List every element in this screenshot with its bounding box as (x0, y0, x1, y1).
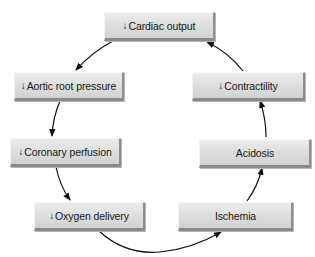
decrease-arrow-icon: ↓ (49, 210, 54, 221)
arrow-aortic-to-coronary (52, 101, 60, 136)
node-ischemia: Ischemia (178, 202, 293, 231)
node-label: Aortic root pressure (27, 80, 117, 92)
node-label: Contractility (224, 80, 278, 92)
decrease-arrow-icon: ↓ (18, 146, 23, 157)
node-label: Ischemia (215, 210, 256, 222)
arrow-contractility-to-cardiac (207, 42, 243, 71)
arrow-oxygen-to-ischemia (99, 231, 221, 252)
node-cardiac-output: ↓ Cardiac output (104, 12, 215, 41)
node-label: Cardiac output (129, 20, 196, 32)
node-label: Coronary perfusion (24, 146, 112, 158)
node-contractility: ↓ Contractility (192, 72, 305, 101)
cycle-diagram: ↓ Cardiac output ↓ Aortic root pressure … (0, 0, 315, 257)
node-oxygen-delivery: ↓ Oxygen delivery (34, 202, 145, 231)
node-label: Acidosis (236, 147, 274, 159)
decrease-arrow-icon: ↓ (21, 80, 26, 91)
arrow-ischemia-to-acidosis (247, 168, 262, 201)
decrease-arrow-icon: ↓ (218, 80, 223, 91)
node-aortic-root-pressure: ↓ Aortic root pressure (14, 72, 124, 101)
arrow-acidosis-to-contractility (260, 101, 266, 137)
arrow-coronary-to-oxygen (56, 167, 70, 200)
node-acidosis: Acidosis (199, 139, 311, 168)
node-coronary-perfusion: ↓ Coronary perfusion (10, 138, 121, 167)
node-label: Oxygen delivery (55, 210, 129, 222)
decrease-arrow-icon: ↓ (123, 20, 128, 31)
arrow-cardiac-to-aortic (76, 41, 113, 70)
